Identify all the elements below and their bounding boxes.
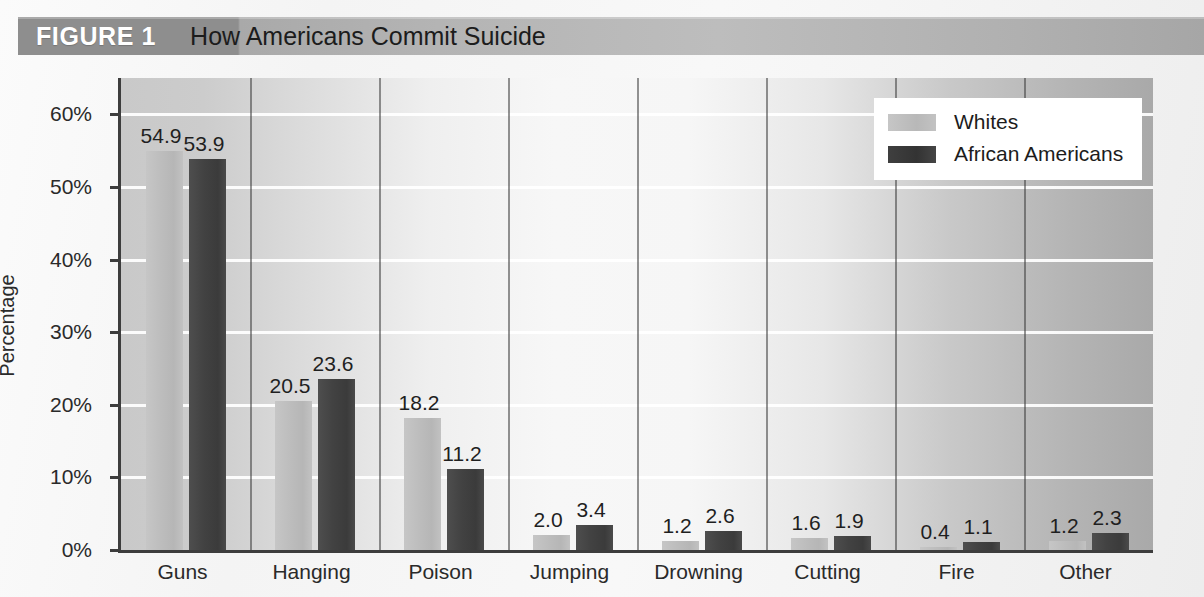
bar-guns-african-americans	[189, 159, 226, 550]
bar-fire-african-americans	[963, 542, 1000, 550]
bar-value-label: 0.4	[920, 520, 949, 544]
bar-drowning-african-americans	[705, 531, 742, 550]
y-axis-tick-label: 10%	[30, 465, 92, 489]
x-axis-label-cutting: Cutting	[794, 560, 861, 584]
y-axis-tick	[110, 259, 118, 262]
bar-cutting-african-americans	[834, 536, 871, 550]
chart-area: 0%10%20%30%40%50%60% GunsHangingPoisonJu…	[0, 62, 1204, 597]
x-axis-label-jumping: Jumping	[530, 560, 609, 584]
category-separator	[766, 78, 768, 550]
legend-item-african-americans: African Americans	[888, 138, 1132, 170]
y-axis-tick	[110, 404, 118, 407]
bar-cutting-whites	[791, 538, 828, 550]
figure-title-bar: FIGURE 1 How Americans Commit Suicide	[18, 17, 1204, 55]
figure-container: FIGURE 1 How Americans Commit Suicide 0%…	[0, 0, 1204, 597]
bar-value-label: 1.6	[791, 511, 820, 535]
category-separator	[250, 78, 252, 550]
y-axis-tick-label: 60%	[30, 102, 92, 126]
x-axis-label-hanging: Hanging	[272, 560, 350, 584]
bar-value-label: 1.9	[834, 509, 863, 533]
bar-value-label: 2.6	[705, 504, 734, 528]
bar-hanging-whites	[275, 401, 312, 550]
figure-number-label: FIGURE 1	[18, 22, 156, 51]
legend-item-whites: Whites	[888, 106, 1132, 138]
bar-value-label: 3.4	[576, 498, 605, 522]
bar-poison-african-americans	[447, 469, 484, 550]
bar-value-label: 1.1	[963, 515, 992, 539]
bar-value-label: 20.5	[270, 374, 311, 398]
x-axis-label-fire: Fire	[938, 560, 974, 584]
x-axis-line	[118, 550, 1153, 553]
y-axis-tick-label: 0%	[30, 538, 92, 562]
bar-value-label: 1.2	[1049, 514, 1078, 538]
category-separator	[379, 78, 381, 550]
x-axis-label-other: Other	[1059, 560, 1112, 584]
bar-value-label: 2.0	[533, 508, 562, 532]
legend-swatch-african-americans-icon	[888, 146, 936, 163]
bar-value-label: 11.2	[442, 442, 481, 466]
bar-value-label: 54.9	[141, 124, 182, 148]
legend-swatch-whites-icon	[888, 114, 936, 131]
bar-value-label: 1.2	[662, 514, 691, 538]
bar-guns-whites	[146, 151, 183, 550]
bar-other-african-americans	[1092, 533, 1129, 550]
figure-title: How Americans Commit Suicide	[156, 22, 546, 51]
category-separator	[508, 78, 510, 550]
y-axis-tick	[110, 549, 118, 552]
x-axis-label-guns: Guns	[157, 560, 207, 584]
legend-label-african-americans: African Americans	[954, 142, 1123, 166]
y-axis-tick-label: 40%	[30, 248, 92, 272]
x-axis-label-drowning: Drowning	[654, 560, 743, 584]
y-axis-tick	[110, 113, 118, 116]
y-axis-tick	[110, 331, 118, 334]
bar-value-label: 23.6	[313, 352, 354, 376]
bar-value-label: 53.9	[184, 132, 225, 156]
y-axis-tick	[110, 476, 118, 479]
bar-jumping-african-americans	[576, 525, 613, 550]
y-axis-tick-label: 50%	[30, 175, 92, 199]
bar-hanging-african-americans	[318, 379, 355, 550]
bar-drowning-whites	[662, 541, 699, 550]
bar-other-whites	[1049, 541, 1086, 550]
y-axis-title: Percentage	[0, 274, 19, 376]
bar-poison-whites	[404, 418, 441, 550]
y-axis-tick-label: 30%	[30, 320, 92, 344]
y-axis-tick	[110, 186, 118, 189]
chart-legend: Whites African Americans	[874, 98, 1142, 180]
category-separator	[637, 78, 639, 550]
x-axis-label-poison: Poison	[408, 560, 472, 584]
bar-jumping-whites	[533, 535, 570, 550]
bar-value-label: 2.3	[1092, 506, 1121, 530]
bar-value-label: 18.2	[399, 391, 440, 415]
y-axis-tick-label: 20%	[30, 393, 92, 417]
legend-label-whites: Whites	[954, 110, 1018, 134]
